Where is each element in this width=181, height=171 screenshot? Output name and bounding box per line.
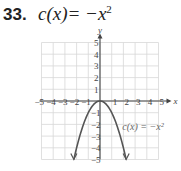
y-axis-label: y: [97, 25, 102, 35]
x-axis-label: x: [173, 96, 178, 106]
x-tick-label: −3: [58, 97, 68, 107]
x-tick-label: 3: [136, 97, 141, 107]
y-tick-label: −5: [91, 155, 101, 165]
x-tick-label: 1: [113, 97, 118, 107]
y-tick-label: −2: [91, 120, 101, 130]
x-tick-label: −2: [70, 97, 80, 107]
tick-labels: xy−5−4−3−2−11234554321−1−2−3−4−5: [35, 25, 178, 166]
y-tick-label: 5: [94, 38, 99, 48]
x-tick-label: −5: [35, 97, 45, 107]
y-tick-label: 2: [94, 73, 99, 83]
x-tick-label: 4: [148, 97, 153, 107]
y-tick-label: 3: [94, 61, 99, 71]
y-tick-label: −1: [91, 108, 101, 118]
x-tick-label: −1: [81, 97, 91, 107]
y-tick-label: 1: [94, 85, 99, 95]
curve-label: c(x) = −x²: [122, 121, 164, 133]
x-tick-label: 5: [160, 97, 165, 107]
x-tick-label: −4: [46, 97, 56, 107]
x-tick-label: 2: [124, 97, 128, 107]
x-axis-arrow-icon: [167, 99, 172, 104]
y-tick-label: −4: [91, 143, 101, 153]
parabola-graph: xy−5−4−3−2−11234554321−1−2−3−4−5 c(x) = …: [0, 0, 181, 171]
y-tick-label: −3: [91, 132, 101, 142]
y-tick-label: 4: [94, 50, 99, 60]
